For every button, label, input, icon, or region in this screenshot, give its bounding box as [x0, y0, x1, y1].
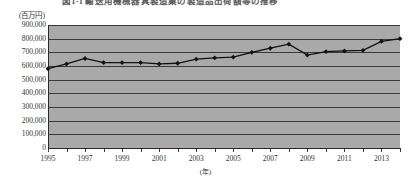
x-axis-tick [289, 149, 290, 152]
y-axis-tick-label: 700,000 [2, 48, 46, 56]
data-point-marker [157, 62, 162, 67]
x-axis-tick [48, 149, 49, 152]
data-point-marker [64, 62, 69, 67]
y-axis-tick-label: 100,000 [2, 130, 46, 138]
data-point-marker [212, 55, 217, 60]
data-point-marker [83, 56, 88, 61]
data-point-marker [323, 49, 328, 54]
data-point-marker [138, 60, 143, 65]
x-axis-tick [344, 149, 345, 152]
x-axis-tick-label: 2007 [255, 154, 285, 163]
x-axis-unit-label: (年) [0, 166, 411, 176]
data-point-marker [46, 66, 51, 71]
y-axis-tick-label: 300,000 [2, 103, 46, 111]
x-axis-tick-label: 2003 [181, 154, 211, 163]
data-point-marker [342, 49, 347, 54]
x-axis-tick [233, 149, 234, 152]
data-point-marker [361, 48, 366, 53]
x-axis-tick-label: 2011 [329, 154, 359, 163]
x-axis-tick [363, 149, 364, 152]
x-axis-tick-label: 2009 [292, 154, 322, 163]
x-axis-line [48, 148, 401, 149]
data-point-marker [120, 60, 125, 65]
y-axis-tick-label: 500,000 [2, 76, 46, 84]
data-point-marker [398, 36, 403, 41]
y-axis-tick-label: 800,000 [2, 35, 46, 43]
x-axis-tick-label: 2001 [144, 154, 174, 163]
data-point-marker [379, 39, 384, 44]
x-axis-tick [215, 149, 216, 152]
data-point-marker [268, 46, 273, 51]
y-axis-tick-label: 0 [2, 144, 46, 152]
x-axis-tick [159, 149, 160, 152]
data-point-marker [249, 50, 254, 55]
y-axis-tick-label: 600,000 [2, 62, 46, 70]
x-axis-tick [326, 149, 327, 152]
data-point-marker [194, 57, 199, 62]
x-axis-tick-label: 2013 [366, 154, 396, 163]
y-axis-unit-label: (百万円) [0, 12, 45, 20]
x-axis-tick [196, 149, 197, 152]
x-axis-tick-label: 2005 [218, 154, 248, 163]
series-line [48, 25, 400, 148]
data-point-marker [231, 55, 236, 60]
line-chart: (百万円) 900,000800,000700,000600,000500,00… [0, 0, 411, 185]
y-axis-tick-label: 400,000 [2, 89, 46, 97]
x-axis-tick [400, 149, 401, 152]
x-axis-tick-label: 1999 [107, 154, 137, 163]
data-point-marker [175, 61, 180, 66]
x-axis-tick [122, 149, 123, 152]
y-axis-tick-label: 200,000 [2, 117, 46, 125]
x-axis-tick-label: 1995 [33, 154, 63, 163]
series-polyline [48, 39, 400, 69]
x-axis-tick [104, 149, 105, 152]
x-axis-tick [252, 149, 253, 152]
x-axis-tick [178, 149, 179, 152]
x-axis-tick [67, 149, 68, 152]
x-axis-tick [141, 149, 142, 152]
x-axis-tick [270, 149, 271, 152]
x-axis-tick [85, 149, 86, 152]
y-axis-tick-label: 900,000 [2, 21, 46, 29]
x-axis-tick-label: 1997 [70, 154, 100, 163]
x-axis-tick [307, 149, 308, 152]
data-point-marker [101, 60, 106, 65]
x-axis-tick [381, 149, 382, 152]
